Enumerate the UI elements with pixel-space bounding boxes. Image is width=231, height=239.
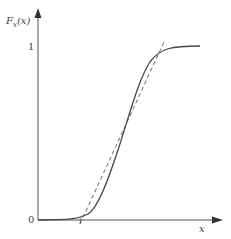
y-axis-label-arg: (x): [17, 15, 30, 26]
y-tick-0: 0: [28, 215, 34, 225]
y-axis-label: Fx(x): [6, 16, 30, 29]
cdf-curve: [38, 46, 200, 220]
x-axis-arrow-icon: [212, 217, 223, 224]
chart-svg: [0, 0, 231, 239]
cdf-chart: Fx(x) 1 0 x: [0, 0, 231, 239]
y-axis-arrow-icon: [35, 8, 42, 18]
dashed-linear-line: [80, 42, 164, 224]
x-axis-label: x: [199, 224, 205, 234]
y-axis-label-main: F: [6, 15, 13, 26]
y-tick-1: 1: [28, 42, 34, 52]
